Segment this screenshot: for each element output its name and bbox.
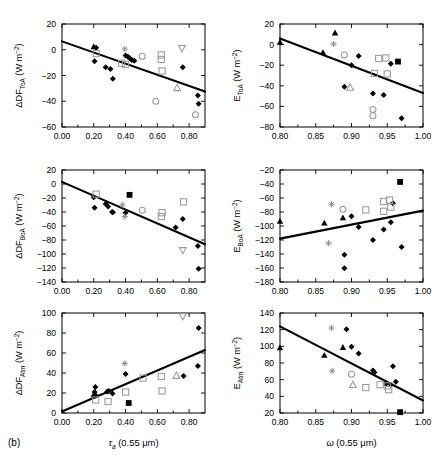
data-point [179,314,186,320]
series-filled-square [126,400,132,406]
data-point [363,384,369,390]
plot-svg-df-atm: 0.000.200.400.600.80100806040200ΔDFAtm (… [0,287,219,447]
data-point [123,371,129,377]
panel-label-b: (b) [8,437,20,448]
y-tick-label: −20 [259,60,274,70]
series-filled-square [397,409,403,415]
data-point [110,209,116,215]
y-tick-label: −180 [255,277,275,287]
y-tick-label: −60 [259,101,274,111]
x-tick-label: 0.80 [181,417,198,427]
data-point [196,325,202,331]
y-tick-label: 0 [51,179,56,189]
y-tick-label: −80 [259,207,274,217]
data-point [277,344,283,350]
data-point [377,382,383,388]
x-tick-label: 0.95 [379,417,396,427]
data-point [397,409,403,415]
data-point [381,92,387,98]
y-tick-label: 20 [46,19,56,29]
series-filled-square [397,179,403,185]
data-point [356,224,362,230]
data-point [349,213,355,219]
y-tick-label: 100 [42,308,57,318]
data-point [349,371,355,377]
y-tick-label: −140 [37,277,57,287]
y-tick-label: −20 [41,71,56,81]
series-filled-diamond [341,200,404,271]
y-axis-label: EToA (W m−2) [231,49,244,101]
y-tick-label: 60 [46,348,56,358]
y-tick-label: −40 [41,207,56,217]
x-tick-label: 0.85 [307,417,324,427]
plot-svg-e-toa: 0.800.850.900.951.00200−20−40−60−80EToA … [218,0,437,161]
data-point [159,68,165,74]
x-tick-label: 0.40 [117,417,134,427]
data-point [159,388,165,394]
data-point [174,84,181,90]
x-tick-label: 0.80 [272,131,289,141]
x-tick-label: 0.80 [272,417,289,427]
x-tick-label: 0.00 [54,417,71,427]
data-point [370,91,376,97]
data-point [397,179,403,185]
y-tick-label: 140 [260,308,275,318]
x-tick-label: 0.95 [379,131,396,141]
data-point [363,207,369,213]
series-filled-diamond [343,326,398,388]
data-point [192,112,198,118]
data-point [350,381,357,387]
y-axis-label: ΔDFToA (W m−2) [13,43,26,107]
data-point [381,227,387,233]
y-tick-label: 60 [264,375,274,385]
series-filled-square [127,192,133,198]
data-point [384,71,390,77]
x-tick-label: 0.00 [54,131,71,141]
y-axis-label: EAtm (W m−2) [231,337,244,389]
x-tick-label: 0.60 [149,131,166,141]
series-filled-diamond [92,325,202,399]
x-tick-label: 0.40 [117,131,134,141]
data-point [180,216,186,222]
series-gray-star [326,201,335,246]
data-point [92,205,98,211]
data-point [343,326,349,332]
data-point [383,55,389,61]
y-tick-label: 80 [264,358,274,368]
series-open-down-triangle [179,314,186,320]
series-filled-square [395,59,401,65]
x-tick-label: 0.80 [181,131,198,141]
axes-frame [62,170,205,282]
regression-line [280,326,423,400]
data-point [153,98,159,104]
data-point [349,344,355,350]
y-tick-label: 40 [264,391,274,401]
series-open-up-triangle [174,84,181,90]
data-point [158,52,164,58]
series-open-square [93,51,165,75]
data-point [195,243,201,249]
series-open-down-triangle [179,248,186,254]
x-axis-label-e-atm: ω (0.55 μm) [0,437,439,448]
data-point [122,213,128,219]
data-point [277,218,283,224]
data-point [399,244,405,250]
y-tick-label: −100 [255,221,275,231]
x-tick-label: 0.90 [343,417,360,427]
data-point [340,344,346,350]
series-open-circle [341,52,376,119]
x-tick-label: 0.85 [307,131,324,141]
data-point [126,400,132,406]
data-point [196,266,202,272]
y-tick-label: −20 [259,165,274,175]
x-tick-label: 0.20 [85,417,102,427]
data-point [328,325,334,331]
y-tick-label: −100 [37,249,57,259]
x-tick-label: 0.20 [85,131,102,141]
data-point [122,360,128,366]
data-point [331,41,337,47]
series-open-square [363,197,394,214]
data-point [122,46,128,52]
axes-frame [280,24,423,127]
data-point [181,373,187,379]
